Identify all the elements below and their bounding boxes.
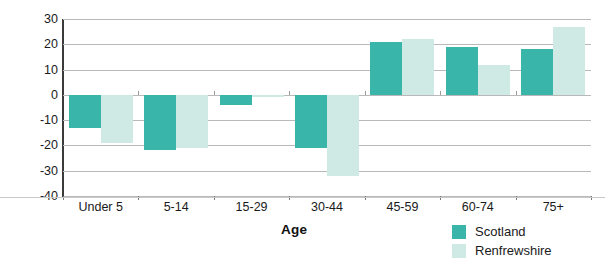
x-axis-tick-label: Under 5 xyxy=(78,200,122,214)
y-axis-tick-labels: 3020100-10-20-30-40 xyxy=(10,19,58,196)
legend-label: Renfrewshire xyxy=(475,243,552,258)
y-axis-tick-label: 20 xyxy=(12,37,58,51)
bar-scotland-5-14 xyxy=(144,95,176,151)
y-axis-tick-label: 0 xyxy=(12,88,58,102)
x-axis-tick-label: 5-14 xyxy=(164,200,189,214)
x-axis-tick-label: 15-29 xyxy=(236,200,268,214)
bottom-rule xyxy=(0,197,605,198)
bar-renfrewshire-30-44 xyxy=(327,95,359,176)
bar-scotland-60-74 xyxy=(446,47,478,95)
y-axis-tick-label: -20 xyxy=(12,138,58,152)
bar-scotland-15-29 xyxy=(220,95,252,105)
x-axis-tick-labels: Under 55-1415-2930-4445-5960-7475+ xyxy=(63,200,591,218)
legend-label: Scotland xyxy=(475,224,526,239)
zero-line-tick xyxy=(138,91,139,95)
gridline xyxy=(63,19,591,20)
plot-area xyxy=(63,19,591,196)
legend-swatch-icon xyxy=(452,244,466,258)
x-axis-tick-label: 45-59 xyxy=(386,200,418,214)
zero-line-tick xyxy=(214,91,215,95)
zero-line-tick xyxy=(289,91,290,95)
gridline xyxy=(63,70,591,71)
gridline xyxy=(63,44,591,45)
bar-renfrewshire-60-74 xyxy=(478,65,510,95)
bar-scotland-30-44 xyxy=(295,95,327,148)
bar-renfrewshire-75- xyxy=(553,27,585,95)
y-axis-tick-label: -30 xyxy=(12,164,58,178)
zero-line-tick xyxy=(516,91,517,95)
bar-scotland-under-5 xyxy=(69,95,101,128)
legend-item-scotland[interactable]: Scotland xyxy=(452,222,552,241)
bar-scotland-45-59 xyxy=(370,42,402,95)
x-axis-tick-label: 75+ xyxy=(543,200,564,214)
y-axis-tick-label: -10 xyxy=(12,113,58,127)
bar-renfrewshire-15-29 xyxy=(252,95,284,98)
legend-item-renfrewshire[interactable]: Renfrewshire xyxy=(452,241,552,260)
bar-renfrewshire-5-14 xyxy=(176,95,208,148)
legend-swatch-icon xyxy=(452,225,466,239)
x-axis-title: Age xyxy=(281,222,307,237)
y-axis-tick-label: 10 xyxy=(12,63,58,77)
bar-scotland-75- xyxy=(521,49,553,95)
y-axis-tick-label: -40 xyxy=(12,189,58,203)
zero-line-tick xyxy=(440,91,441,95)
bar-renfrewshire-under-5 xyxy=(101,95,133,143)
zero-line-tick xyxy=(365,91,366,95)
chart-legend: ScotlandRenfrewshire xyxy=(452,222,552,260)
x-axis-tick-label: 30-44 xyxy=(311,200,343,214)
bar-renfrewshire-45-59 xyxy=(402,39,434,95)
bar-chart: Percent 3020100-10-20-30-40 Under 55-141… xyxy=(0,0,605,265)
y-axis-tick-label: 30 xyxy=(12,12,58,26)
x-axis-tick-label: 60-74 xyxy=(462,200,494,214)
